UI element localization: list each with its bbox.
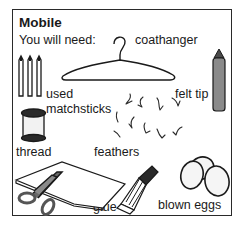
thread-spool-icon: [22, 109, 46, 142]
illustration: [0, 0, 243, 225]
eggs-icon: [178, 154, 232, 198]
coathanger-icon: [62, 37, 175, 80]
feathers-icon: [114, 94, 182, 138]
glue-tube-icon: [117, 166, 158, 214]
felt-tip-pen-icon: [213, 49, 225, 111]
matchsticks-icon: [19, 56, 41, 96]
